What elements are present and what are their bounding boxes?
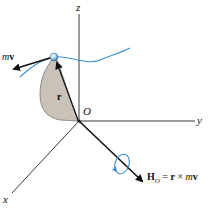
position-vector-label: r xyxy=(57,92,61,102)
particle xyxy=(50,53,58,61)
x-axis xyxy=(12,121,79,193)
x-axis-label: x xyxy=(3,194,8,205)
swept-area xyxy=(40,57,78,121)
angular-momentum-diagram: z y x O r mv HO = r × mv xyxy=(0,0,212,208)
momentum-label: mv xyxy=(2,52,14,62)
y-axis-label: y xyxy=(197,115,202,126)
angular-momentum-vector xyxy=(79,121,142,181)
angular-momentum-equation: HO = r × mv xyxy=(147,172,198,185)
z-axis-label: z xyxy=(76,2,80,13)
origin-label: O xyxy=(83,106,91,117)
